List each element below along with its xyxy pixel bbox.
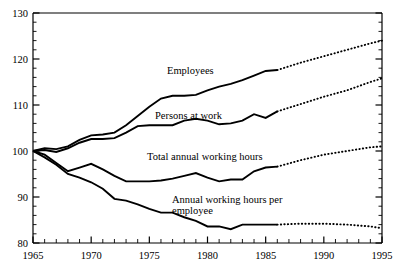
x-axis-ticks	[33, 237, 382, 244]
series-label-employees: Employees	[167, 65, 214, 76]
x-tick-label: 1980	[197, 250, 218, 261]
chart-container: 8090100110120130 19651970197519801985199…	[0, 0, 404, 273]
series-forecast-employees	[277, 41, 382, 70]
series-line-annual-working-hours-per-employee	[33, 151, 277, 229]
x-tick-label: 1995	[372, 250, 393, 261]
series-label-total-annual-working-hours: Total annual working hours	[147, 151, 263, 162]
series-label-persons-at-work: Persons at work	[155, 110, 223, 121]
y-tick-label: 80	[18, 238, 29, 249]
y-tick-label: 130	[12, 8, 28, 19]
series-label-annual-working-hours-per-employee-l2: employee	[172, 205, 213, 216]
y-tick-label: 90	[18, 192, 29, 203]
x-tick-label: 1970	[81, 250, 102, 261]
x-tick-label: 1990	[313, 250, 334, 261]
y-axis-tick-labels: 8090100110120130	[12, 8, 28, 249]
series-label-annual-working-hours-per-employee-l1: Annual working hours per	[172, 194, 283, 205]
x-axis-tick-labels: 1965197019751980198519901995	[23, 250, 393, 261]
y-tick-label: 100	[12, 146, 28, 157]
y-tick-label: 120	[12, 54, 28, 65]
x-tick-label: 1975	[139, 250, 160, 261]
x-tick-label: 1965	[23, 250, 44, 261]
y-axis-ticks	[33, 13, 40, 243]
y-axis-ticks-right	[376, 13, 383, 243]
x-tick-label: 1985	[255, 250, 276, 261]
series-forecast-persons-at-work	[277, 78, 382, 111]
line-chart: 8090100110120130 19651970197519801985199…	[0, 0, 404, 273]
series-forecast-total-annual-working-hours	[277, 146, 382, 166]
series-forecast-annual-working-hours-per-employee	[277, 224, 382, 229]
y-tick-label: 110	[13, 100, 28, 111]
